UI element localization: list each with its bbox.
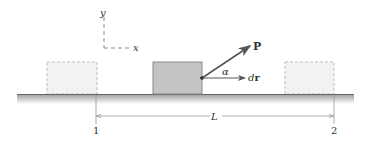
ghost-block-position-2 — [285, 62, 334, 94]
ghost-block-position-1 — [47, 62, 97, 94]
block — [153, 62, 202, 94]
ground-surface — [17, 94, 354, 104]
x-axis-label: x — [133, 42, 139, 53]
y-axis-label: y — [99, 7, 106, 18]
displacement-dr-label: dr — [248, 72, 260, 83]
position-1-label: 1 — [93, 125, 99, 136]
force-p-label: P — [253, 40, 261, 53]
position-2-label: 2 — [331, 125, 337, 136]
coordinate-axes: y x — [99, 7, 139, 53]
distance-l-label: L — [210, 111, 218, 122]
angle-alpha-label: α — [222, 66, 229, 77]
work-diagram: y x P dr α L 1 2 — [0, 0, 366, 141]
